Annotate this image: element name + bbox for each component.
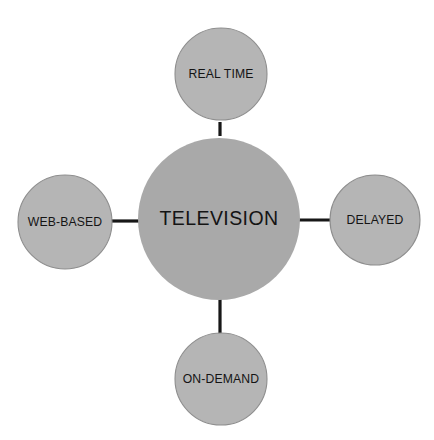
node-television-label: TELEVISION [160, 207, 279, 229]
node-web-based[interactable]: WEB-BASED [18, 175, 112, 269]
diagram-canvas: REAL TIME WEB-BASED DELAYED ON-DEMAND TE… [0, 0, 434, 440]
node-delayed[interactable]: DELAYED [330, 175, 420, 265]
node-real-time-label: REAL TIME [188, 67, 253, 81]
node-television[interactable]: TELEVISION [138, 138, 300, 300]
television-concept-map: REAL TIME WEB-BASED DELAYED ON-DEMAND TE… [0, 0, 434, 440]
node-on-demand-label: ON-DEMAND [183, 372, 260, 386]
node-real-time[interactable]: REAL TIME [175, 28, 267, 120]
node-web-based-label: WEB-BASED [28, 215, 103, 229]
node-on-demand[interactable]: ON-DEMAND [175, 333, 267, 425]
node-delayed-label: DELAYED [346, 213, 403, 227]
